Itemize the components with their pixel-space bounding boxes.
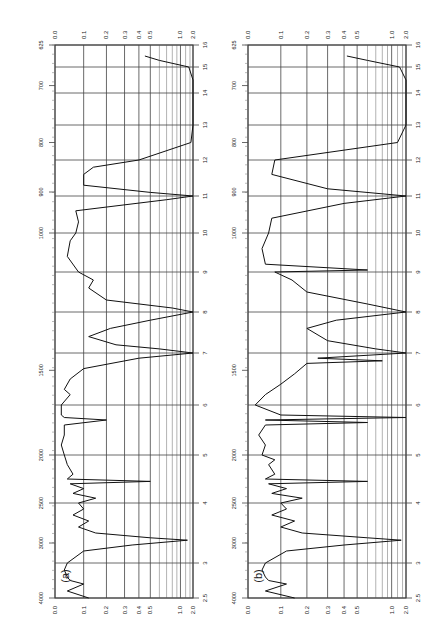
wavenumber-tick-label: 2000 bbox=[231, 449, 237, 461]
absorbance-tick-label-top: 1.0 bbox=[389, 30, 395, 39]
wavelength-tick-label: 7 bbox=[415, 351, 421, 355]
wavelength-tick-label: 10 bbox=[202, 229, 208, 236]
wavelength-tick-label: 16 bbox=[202, 41, 208, 48]
wavenumber-tick-label: 2500 bbox=[38, 497, 44, 509]
absorbance-tick-label-top: 0.3 bbox=[122, 30, 128, 39]
ir-spectra-figure: 0.00.00.10.10.20.20.30.30.40.40.50.51.01… bbox=[0, 0, 424, 637]
wavenumber-tick-label: 800 bbox=[231, 138, 237, 147]
absorbance-tick-label: 0.4 bbox=[136, 605, 142, 614]
wavelength-tick-label: 12 bbox=[202, 156, 208, 163]
wavenumber-tick-label: 1500 bbox=[231, 364, 237, 376]
wavenumber-tick-label: 3000 bbox=[38, 537, 44, 549]
absorbance-tick-label: 0.1 bbox=[278, 605, 284, 614]
wavelength-tick-label: 11 bbox=[415, 192, 421, 199]
absorbance-tick-label: 0.5 bbox=[147, 605, 153, 614]
wavenumber-tick-label: 625 bbox=[231, 40, 237, 49]
absorbance-tick-label: 2.0 bbox=[190, 605, 196, 614]
wavelength-tick-label: 14 bbox=[202, 89, 208, 96]
wavelength-tick-label: 9 bbox=[415, 270, 421, 274]
wavelength-tick-label: 15 bbox=[415, 63, 421, 70]
wavelength-tick-label: 8 bbox=[415, 310, 421, 314]
absorbance-tick-label-top: 0.0 bbox=[52, 30, 58, 39]
absorbance-tick-label: 0.2 bbox=[103, 605, 109, 614]
wavelength-tick-label: 16 bbox=[415, 41, 421, 48]
wavelength-tick-label: 13 bbox=[415, 121, 421, 128]
absorbance-tick-label: 0.3 bbox=[122, 605, 128, 614]
absorbance-tick-label-top: 1.0 bbox=[177, 30, 183, 39]
absorbance-tick-label: 1.0 bbox=[389, 605, 395, 614]
absorbance-tick-label: 1.0 bbox=[177, 605, 183, 614]
absorbance-tick-label-top: 0.5 bbox=[147, 30, 153, 39]
wavelength-tick-label: 6 bbox=[202, 403, 208, 407]
wavenumber-tick-label: 1000 bbox=[38, 227, 44, 239]
absorbance-tick-label: 0.2 bbox=[304, 605, 310, 614]
wavelength-tick-label: 8 bbox=[202, 310, 208, 314]
wavelength-tick-label: 11 bbox=[202, 192, 208, 199]
absorbance-tick-label-top: 0.5 bbox=[354, 30, 360, 39]
wavenumber-tick-label: 700 bbox=[38, 81, 44, 90]
wavenumber-tick-label: 625 bbox=[38, 40, 44, 49]
wavenumber-tick-label: 2000 bbox=[38, 449, 44, 461]
panel-label: (b) bbox=[252, 569, 264, 582]
absorbance-tick-label: 0.0 bbox=[52, 605, 58, 614]
absorbance-tick-label-top: 0.1 bbox=[278, 30, 284, 39]
spectrum-panel-a: 0.00.00.10.10.20.20.30.30.40.40.50.51.01… bbox=[38, 30, 208, 614]
absorbance-tick-label: 0.4 bbox=[341, 605, 347, 614]
wavelength-tick-label: 15 bbox=[202, 63, 208, 70]
wavelength-tick-label: 12 bbox=[415, 156, 421, 163]
absorbance-tick-label: 2.0 bbox=[403, 605, 409, 614]
wavelength-tick-label: 5 bbox=[202, 453, 208, 457]
wavelength-tick-label: 4 bbox=[415, 501, 421, 505]
wavelength-tick-label: 2.5 bbox=[202, 593, 208, 602]
wavelength-tick-label: 6 bbox=[415, 403, 421, 407]
wavelength-tick-label: 9 bbox=[202, 270, 208, 274]
absorbance-tick-label-top: 0.1 bbox=[81, 30, 87, 39]
wavenumber-tick-label: 700 bbox=[231, 81, 237, 90]
wavelength-tick-label: 14 bbox=[415, 89, 421, 96]
wavelength-tick-label: 13 bbox=[202, 121, 208, 128]
spectrum-trace bbox=[61, 56, 193, 598]
wavenumber-tick-label: 1500 bbox=[38, 364, 44, 376]
wavenumber-tick-label: 900 bbox=[38, 187, 44, 196]
absorbance-tick-label-top: 2.0 bbox=[190, 30, 196, 39]
absorbance-tick-label-top: 0.2 bbox=[103, 30, 109, 39]
wavenumber-tick-label: 4000 bbox=[231, 592, 237, 604]
wavelength-tick-label: 5 bbox=[415, 453, 421, 457]
wavelength-tick-label: 4 bbox=[202, 501, 208, 505]
wavenumber-tick-label: 800 bbox=[38, 138, 44, 147]
absorbance-tick-label-top: 0.2 bbox=[304, 30, 310, 39]
panel-label: (a) bbox=[59, 569, 71, 582]
wavenumber-tick-label: 2500 bbox=[231, 497, 237, 509]
absorbance-tick-label-top: 0.4 bbox=[341, 30, 347, 39]
absorbance-tick-label: 0.0 bbox=[245, 605, 251, 614]
absorbance-tick-label-top: 0.3 bbox=[325, 30, 331, 39]
absorbance-tick-label: 0.1 bbox=[81, 605, 87, 614]
wavenumber-tick-label: 3000 bbox=[231, 537, 237, 549]
spectrum-panel-b: 0.00.00.10.10.20.20.30.30.40.40.50.51.01… bbox=[231, 30, 421, 614]
wavelength-tick-label: 10 bbox=[415, 229, 421, 236]
wavelength-tick-label: 3 bbox=[415, 561, 421, 565]
absorbance-tick-label-top: 0.4 bbox=[136, 30, 142, 39]
wavenumber-tick-label: 4000 bbox=[38, 592, 44, 604]
spectrum-trace bbox=[255, 56, 406, 598]
wavelength-tick-label: 7 bbox=[202, 351, 208, 355]
absorbance-tick-label-top: 2.0 bbox=[403, 30, 409, 39]
wavelength-tick-label: 2.5 bbox=[415, 593, 421, 602]
absorbance-tick-label-top: 0.0 bbox=[245, 30, 251, 39]
wavenumber-tick-label: 1000 bbox=[231, 227, 237, 239]
absorbance-tick-label: 0.5 bbox=[354, 605, 360, 614]
wavenumber-tick-label: 900 bbox=[231, 187, 237, 196]
absorbance-tick-label: 0.3 bbox=[325, 605, 331, 614]
wavelength-tick-label: 3 bbox=[202, 561, 208, 565]
